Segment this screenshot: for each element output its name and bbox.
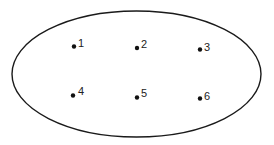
point-5-label: 5 bbox=[141, 88, 147, 99]
point-3-label: 3 bbox=[204, 42, 210, 53]
point-4-label: 4 bbox=[78, 86, 84, 97]
set-boundary-ellipse bbox=[12, 11, 261, 137]
point-1-label: 1 bbox=[78, 38, 84, 49]
point-2-dot bbox=[135, 46, 139, 50]
point-6-dot bbox=[198, 96, 202, 100]
point-5-dot bbox=[135, 95, 139, 99]
point-2-label: 2 bbox=[141, 39, 147, 50]
point-1-dot bbox=[72, 44, 76, 48]
point-4-dot bbox=[71, 93, 75, 97]
set-diagram bbox=[0, 0, 274, 145]
point-3-dot bbox=[198, 47, 202, 51]
point-6-label: 6 bbox=[204, 91, 210, 102]
